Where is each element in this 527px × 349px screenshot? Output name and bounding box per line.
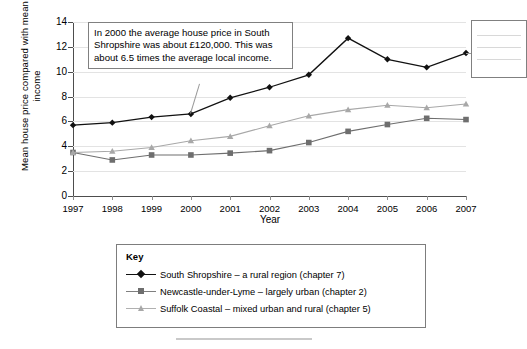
y-axis-label: Mean house price compared with mean inco… [19, 1, 43, 171]
legend-item-newcastle-under-lyme: Newcastle-under-Lyme – largely urban (ch… [126, 283, 416, 300]
x-tick [230, 196, 231, 200]
data-point [227, 150, 233, 156]
y-tick-label: 10 [45, 67, 67, 77]
x-tick-label: 1997 [53, 203, 93, 214]
data-point [70, 122, 76, 128]
data-point [345, 129, 351, 135]
legend-label: Newcastle-under-Lyme – largely urban (ch… [160, 287, 367, 297]
x-tick [387, 196, 388, 200]
legend-label: South Shropshire – a rural region (chapt… [160, 270, 345, 280]
data-point [424, 116, 430, 122]
x-tick [191, 196, 192, 200]
data-point [384, 56, 390, 62]
x-tick-label: 2000 [171, 203, 211, 214]
y-tick-label: 14 [45, 17, 67, 27]
data-point [463, 117, 469, 123]
legend-item-south-shropshire: South Shropshire – a rural region (chapt… [126, 266, 416, 283]
legend-marker-triangle-icon [126, 303, 156, 314]
x-tick [112, 196, 113, 200]
x-tick [73, 196, 74, 200]
data-point [385, 122, 391, 128]
x-tick [427, 196, 428, 200]
annotation-leader-line-right [466, 53, 471, 54]
x-tick-label: 2005 [367, 203, 407, 214]
y-tick-label: 0 [45, 191, 67, 201]
data-point [424, 64, 430, 70]
x-tick [348, 196, 349, 200]
chart-legend: Key South Shropshire – a rural region (c… [116, 244, 426, 328]
y-tick-label: 4 [45, 141, 67, 151]
legend-marker-diamond-icon [126, 269, 156, 280]
data-point [266, 84, 272, 90]
x-tick-label: 2004 [328, 203, 368, 214]
data-point [109, 119, 115, 125]
x-tick-label: 1998 [92, 203, 132, 214]
x-axis-label: Year [70, 214, 470, 225]
data-point [149, 152, 155, 158]
y-tick-label: 8 [45, 92, 67, 102]
x-tick [152, 196, 153, 200]
y-tick-label: 12 [45, 42, 67, 52]
legend-label: Suffolk Coastal – mixed urban and rural … [160, 304, 371, 314]
legend-title: Key [126, 251, 416, 262]
line-chart: Mean house price compared with mean inco… [0, 0, 489, 232]
y-tick-label: 6 [45, 116, 67, 126]
x-tick-label: 2001 [210, 203, 250, 214]
legend-item-suffolk-coastal: Suffolk Coastal – mixed urban and rural … [126, 300, 416, 317]
annotation-callout-clipped [471, 20, 527, 78]
legend-marker-square-icon [126, 286, 156, 297]
data-point [110, 157, 116, 163]
x-tick [466, 196, 467, 200]
data-point [188, 152, 194, 158]
annotation-callout-2000: In 2000 the average house price in South… [88, 22, 293, 69]
series-triangle [70, 101, 469, 155]
x-tick-label: 2006 [407, 203, 447, 214]
data-point [267, 148, 273, 154]
x-tick [309, 196, 310, 200]
y-tick-label: 2 [45, 166, 67, 176]
data-point [227, 95, 233, 101]
x-tick [270, 196, 271, 200]
x-tick-label: 2007 [446, 203, 486, 214]
x-tick-label: 2002 [250, 203, 290, 214]
data-point [148, 114, 154, 120]
x-tick-label: 2003 [289, 203, 329, 214]
data-point [306, 140, 312, 146]
x-tick-label: 1999 [132, 203, 172, 214]
footer-rule [176, 338, 312, 340]
